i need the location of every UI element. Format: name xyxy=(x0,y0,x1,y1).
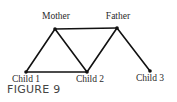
label-father: Father xyxy=(106,11,131,21)
figure-caption: FIGURE 9 xyxy=(7,83,61,96)
node-father xyxy=(115,26,119,30)
edge-mother-child2 xyxy=(55,29,87,72)
edge-father-child2 xyxy=(87,28,117,72)
edge-mother-child1 xyxy=(26,29,55,72)
graph-labels: MotherFatherChild 1Child 2Child 3 xyxy=(12,11,164,84)
graph-nodes xyxy=(24,26,152,74)
edge-mother-father xyxy=(55,28,117,29)
graph-edges xyxy=(26,28,150,72)
label-mother: Mother xyxy=(42,11,71,21)
label-child3: Child 3 xyxy=(136,73,164,83)
node-mother xyxy=(53,27,57,31)
label-child2: Child 2 xyxy=(76,74,104,84)
edge-father-child3 xyxy=(117,28,150,71)
